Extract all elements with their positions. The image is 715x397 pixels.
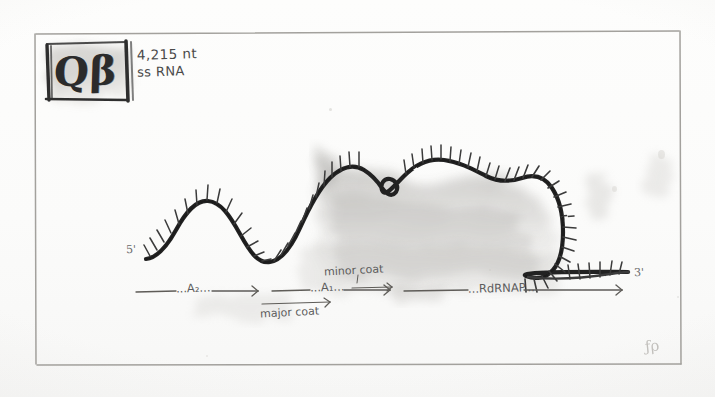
genome-length-label: 4,215 nt [137, 46, 197, 64]
gene-label-rdrnap: ...RdRNAP... [468, 280, 535, 296]
qbeta-logo: Qβ [53, 46, 118, 95]
paper-speck [658, 150, 665, 159]
graphite-smudge [196, 150, 672, 320]
paper-speck [206, 355, 208, 357]
gene-label-a2: ...A₂... [176, 280, 211, 295]
paper-speck [612, 186, 617, 192]
artist-signature: ƒρ [644, 336, 660, 355]
paper-speck [489, 269, 491, 271]
paper-speck [329, 108, 332, 111]
genome-type-label: ss RNA [137, 63, 185, 80]
paper-speck [677, 296, 679, 298]
five-prime-label: 5' [126, 243, 137, 257]
sketch-canvas: Qβ 4,215 nt ss RNA 5' 3' ...A₂... ...A₁.… [0, 0, 715, 397]
gene-label-a1: ...A₁... [310, 279, 345, 294]
three-prime-label: 3' [634, 266, 645, 280]
